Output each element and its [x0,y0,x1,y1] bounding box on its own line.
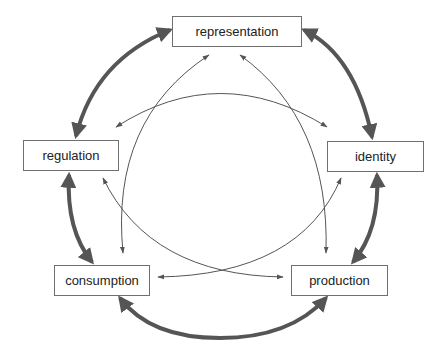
arc-regulation-representation [76,30,170,136]
arc-representation-identity [304,30,372,137]
node-identity: identity [327,141,424,172]
link-regulation-identity [116,94,327,128]
node-representation: representation [172,16,302,47]
arc-consumption-production [120,298,326,338]
node-label: consumption [65,273,139,288]
node-label: regulation [42,148,99,163]
link-regulation-production [103,178,283,277]
arc-regulation-consumption [69,175,92,262]
node-label: production [309,273,370,288]
node-label: representation [195,24,278,39]
node-regulation: regulation [23,140,119,171]
link-representation-production [240,55,326,253]
node-consumption: consumption [54,265,150,296]
node-production: production [291,265,388,296]
links-layer [0,0,440,357]
link-identity-consumption [158,178,341,277]
node-label: identity [355,149,396,164]
arc-identity-production [353,175,377,262]
